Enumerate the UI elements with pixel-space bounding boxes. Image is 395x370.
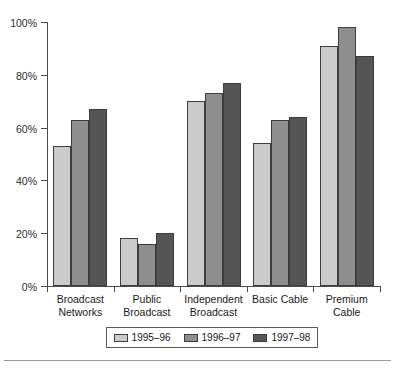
x-axis-tick [47, 287, 48, 292]
bar-group [320, 22, 374, 286]
bar-chart: 100%80%60%40%20%0% Broadcast NetworksPub… [0, 0, 395, 370]
legend-label: 1996–97 [202, 333, 241, 343]
bar [156, 233, 174, 286]
legend-label: 1997–98 [271, 333, 310, 343]
x-axis-category-label: Public Broadcast [114, 293, 181, 318]
bottom-divider [4, 360, 391, 361]
legend-item[interactable]: 1995–96 [114, 333, 171, 343]
y-axis-tick-label: 80% [16, 70, 37, 81]
x-axis-category-label: Independent Broadcast [180, 293, 247, 318]
bar [223, 83, 241, 286]
chart-legend: 1995–961996–971997–98 [106, 327, 318, 348]
bar [338, 27, 356, 286]
legend-label: 1995–96 [132, 333, 171, 343]
y-axis-tick-label: 20% [16, 228, 37, 239]
legend-swatch [253, 334, 267, 342]
y-axis-tick-label: 100% [10, 17, 37, 28]
bar [320, 46, 338, 286]
x-axis-category-label: Premium Cable [313, 293, 380, 318]
bar [205, 93, 223, 286]
plot-area [47, 22, 380, 286]
y-axis-tick-label: 0% [22, 281, 37, 292]
bar [138, 244, 156, 286]
x-axis-category-label: Basic Cable [247, 293, 314, 306]
y-axis-tick-label: 40% [16, 175, 37, 186]
bar [187, 101, 205, 286]
y-axis-tick-label: 60% [16, 123, 37, 134]
bar [71, 120, 89, 286]
bar [89, 109, 107, 286]
bar [53, 146, 71, 286]
legend-item[interactable]: 1997–98 [253, 333, 310, 343]
bar [253, 143, 271, 286]
bar [356, 56, 374, 286]
bar-group [187, 22, 241, 286]
bar-group [253, 22, 307, 286]
x-axis-category-label: Broadcast Networks [47, 293, 114, 318]
x-axis-tick [114, 287, 115, 292]
x-axis-line [47, 286, 381, 287]
x-axis-tick [380, 287, 381, 292]
bar [271, 120, 289, 286]
x-axis-tick [247, 287, 248, 292]
x-axis-tick [180, 287, 181, 292]
bar [120, 238, 138, 286]
bar-group [120, 22, 174, 286]
legend-swatch [184, 334, 198, 342]
bar-group [53, 22, 107, 286]
x-axis-tick [313, 287, 314, 292]
bar [289, 117, 307, 286]
legend-item[interactable]: 1996–97 [184, 333, 241, 343]
legend-swatch [114, 334, 128, 342]
